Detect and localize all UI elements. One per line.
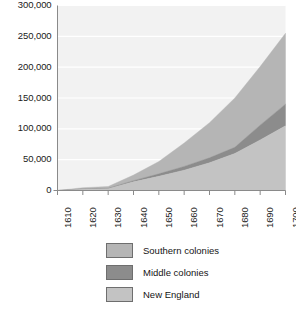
y-axis-tick-label: 300,000 — [18, 0, 52, 10]
legend-label: Southern colonies — [143, 245, 219, 256]
legend-swatch — [106, 243, 133, 258]
x-axis-tick-label: 1640 — [138, 207, 149, 228]
x-axis-tick-label: 1670 — [214, 207, 225, 228]
legend-item: New England — [106, 284, 296, 305]
x-axis-tick-label: 1700 — [290, 207, 297, 228]
x-axis-tick-label: 1680 — [239, 207, 250, 228]
y-axis-tick-label: 250,000 — [18, 30, 52, 41]
x-axis-tick-label: 1610 — [62, 207, 73, 228]
x-axis-tick-label: 1620 — [87, 207, 98, 228]
x-axis-tick-label: 1650 — [163, 207, 174, 228]
legend-swatch — [106, 265, 133, 280]
x-axis-tick-label: 1690 — [264, 207, 275, 228]
y-axis-tick-label: 200,000 — [18, 61, 52, 72]
stacked-area-chart: 050,000100,000150,000200,000250,000300,0… — [0, 0, 296, 310]
y-axis-tick-label: 50,000 — [23, 153, 51, 164]
y-axis-tick-label: 150,000 — [18, 92, 52, 103]
legend-item: Middle colonies — [106, 262, 296, 283]
legend-swatch — [106, 287, 133, 302]
x-axis-tick-label: 1630 — [112, 207, 123, 228]
x-axis-tick-label: 1660 — [188, 207, 199, 228]
y-axis-tick-label: 100,000 — [18, 122, 52, 133]
chart-legend: Southern coloniesMiddle coloniesNew Engl… — [106, 240, 296, 306]
legend-label: New England — [143, 289, 200, 300]
legend-label: Middle colonies — [143, 267, 208, 278]
legend-item: Southern colonies — [106, 240, 296, 261]
y-axis-tick-label: 0 — [46, 184, 51, 195]
